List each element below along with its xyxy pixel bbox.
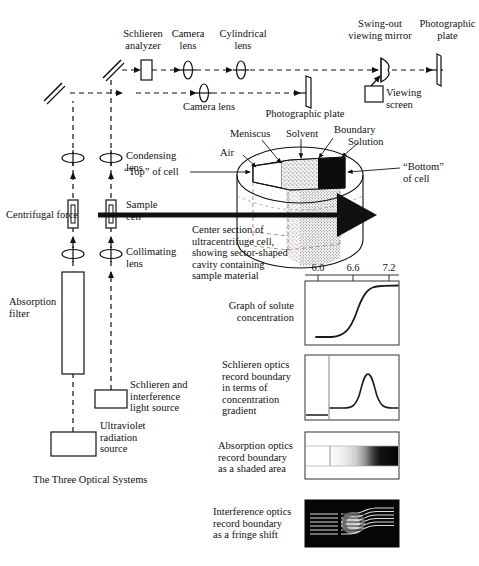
axis-tick-3: 7.2: [375, 262, 403, 274]
condensing-lens-uv-element: [62, 150, 84, 166]
schlieren-interference-light-source-element: [95, 390, 127, 408]
label-camera-lens-lower: Camera lens: [176, 101, 242, 113]
axis-tick-2: 6.6: [339, 262, 367, 274]
photographic-plate-lower-element: [298, 76, 311, 108]
caption-absorption-optics: Absorption optics record boundary as a s…: [218, 440, 310, 475]
cylindrical-lens-element: [233, 61, 249, 79]
figure-three-optical-systems: Schlieren analyzer Camera lens Cylindric…: [0, 0, 479, 566]
label-boundary: Boundary: [334, 124, 375, 136]
label-schlieren-interference-light-source: Schlieren and interference light source: [130, 379, 208, 414]
label-cylindrical-lens: Cylindrical lens: [212, 28, 274, 51]
panel-absorption-optics: [305, 432, 399, 479]
camera-lens-upper-element: [180, 61, 196, 79]
mirror-lower: [44, 83, 65, 104]
cell-sector-cavity: [253, 157, 345, 190]
panel-interference-optics: [305, 500, 399, 547]
label-bottom-of-cell: “Bottom” of cell: [403, 161, 463, 184]
label-absorption-filter: Absorption filter: [9, 296, 69, 319]
collimating-lens-schlieren-element: [100, 246, 122, 262]
panel-schlieren-optics: [305, 355, 399, 420]
schlieren-analyzer-element: [141, 60, 152, 80]
panel-solute-concentration-graph: [305, 275, 399, 345]
swing-out-viewing-mirror-element: [381, 58, 389, 82]
caption-schlieren-optics: Schlieren optics record boundary in term…: [222, 359, 306, 417]
label-viewing-screen: Viewing screen: [386, 87, 442, 110]
caption-solute-concentration: Graph of solute concentration: [190, 300, 294, 323]
label-photographic-plate-upper: Photographic plate: [416, 18, 479, 41]
mirror-upper: [103, 60, 124, 81]
label-collimating-lens: Collimating lens: [126, 246, 196, 269]
condensing-lens-schlieren-element: [100, 150, 122, 166]
label-swing-out-viewing-mirror: Swing-out viewing mirror: [334, 18, 426, 41]
label-centrifugal-force: Centrifugal force: [6, 209, 78, 221]
label-top-of-cell: “Top” of cell: [124, 166, 179, 178]
label-solution: Solution: [348, 136, 384, 148]
label-air: Air: [220, 147, 234, 159]
axis-tick-1: 6.0: [304, 262, 332, 274]
label-photographic-plate-lower: Photographic plate: [252, 108, 358, 120]
label-meniscus: Meniscus: [230, 128, 270, 140]
label-ultraviolet-radiation-source: Ultraviolet radiation source: [100, 420, 170, 455]
caption-interference-optics: Interference optics record boundary as a…: [213, 506, 309, 541]
figure-caption: The Three Optical Systems: [33, 474, 173, 486]
label-camera-lens-upper: Camera lens: [162, 28, 214, 51]
fringe-shift-core: [341, 512, 365, 534]
viewing-screen-element: [365, 76, 383, 102]
collimating-lens-uv-element: [62, 246, 84, 262]
camera-lens-lower-element: [196, 84, 212, 102]
absorption-filter-element: [62, 272, 84, 374]
label-solvent: Solvent: [286, 128, 318, 140]
label-cell-description: Center section of ultracentrifuge cell, …: [192, 224, 304, 282]
photographic-plate-upper-element: [430, 54, 443, 86]
label-sample-cell: Sample cell: [126, 199, 182, 222]
ultraviolet-radiation-source-element: [51, 432, 96, 456]
